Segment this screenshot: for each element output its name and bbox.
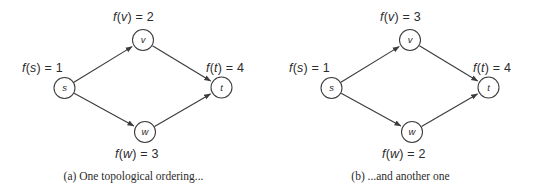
node-label-w: w	[409, 126, 417, 137]
label-f-v: f(v) = 2	[113, 10, 154, 24]
label-f-t: f(t) = 4	[206, 61, 244, 75]
label-f-t: f(t) = 4	[473, 61, 511, 75]
edge-v-t	[152, 46, 210, 81]
edge-s-v	[341, 47, 399, 83]
label-f-v: f(v) = 3	[380, 10, 421, 24]
edge-v-t	[419, 46, 477, 81]
edge-s-w	[341, 93, 401, 126]
edge-group	[74, 46, 211, 127]
edge-s-w	[74, 93, 134, 126]
label-f-s: f(s) = 1	[289, 61, 330, 75]
graph-b: svwt	[267, 0, 534, 170]
panel-b-caption: (b) ...and another one	[267, 170, 534, 182]
node-group: svwt	[54, 30, 232, 143]
node-label-t: t	[487, 82, 490, 93]
label-f-s: f(s) = 1	[22, 61, 63, 75]
topological-ordering-figure: svwt f(s) = 1 f(v) = 2 f(w) = 3 f(t) = 4…	[0, 0, 534, 188]
node-label-s: s	[62, 82, 67, 93]
graph-a: svwt	[0, 0, 267, 170]
edge-group	[341, 46, 478, 127]
node-label-w: w	[142, 126, 150, 137]
node-label-s: s	[329, 82, 334, 93]
panel-a: svwt f(s) = 1 f(v) = 2 f(w) = 3 f(t) = 4…	[0, 0, 267, 188]
label-f-w: f(w) = 2	[382, 147, 426, 161]
edge-w-t	[155, 94, 211, 127]
edge-w-t	[422, 94, 478, 127]
label-f-w: f(w) = 3	[115, 147, 159, 161]
node-label-t: t	[220, 82, 223, 93]
node-group: svwt	[321, 30, 499, 143]
panel-b: svwt f(s) = 1 f(v) = 3 f(w) = 2 f(t) = 4…	[267, 0, 534, 188]
edge-s-v	[74, 47, 132, 83]
panel-a-caption: (a) One topological ordering...	[0, 170, 267, 182]
